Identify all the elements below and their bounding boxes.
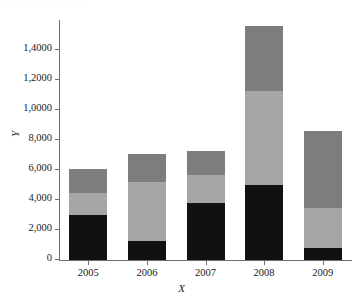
stacked-bar: [304, 131, 342, 260]
x-axis-tick: 2009: [323, 261, 324, 265]
bar-segment-series-1: [304, 248, 342, 260]
y-axis-tick: 1,4000: [55, 49, 59, 50]
bar-chart-figure: · ·· ·· ·· ·· · · ·· ·· · · ·· · 02,0004…: [0, 0, 363, 299]
bar-segment-series-3: [245, 26, 283, 91]
bar-segment-series-3: [69, 169, 107, 193]
y-axis-tick-label: 2,000: [28, 222, 52, 234]
y-axis-tick: 2,000: [55, 229, 59, 230]
x-axis-tick: 2008: [264, 261, 265, 265]
stacked-bar: [128, 154, 166, 261]
x-axis-tick: 2005: [88, 261, 89, 265]
x-axis-tick-label: 2005: [78, 267, 99, 279]
y-axis-tick: 8,000: [55, 139, 59, 140]
y-axis-tick-label: 4,000: [28, 192, 52, 204]
y-axis-tick-label: 1,4000: [23, 42, 52, 54]
bar-segment-series-2: [128, 182, 166, 241]
bar-segment-series-1: [69, 215, 107, 260]
bar-segment-series-1: [245, 185, 283, 260]
y-axis-tick-label: 6,000: [28, 162, 52, 174]
bar-segment-series-3: [304, 131, 342, 208]
x-axis-tick-label: 2008: [254, 267, 275, 279]
bar-segment-series-2: [304, 208, 342, 249]
bar-segment-series-2: [245, 91, 283, 186]
y-axis-tick-label: 1,2000: [23, 72, 52, 84]
bar-segment-series-1: [128, 241, 166, 261]
stacked-bar: [245, 26, 283, 260]
y-axis-tick-label: 0: [47, 252, 52, 264]
y-axis-tick-label: 1,0000: [23, 102, 52, 114]
y-axis-line: [59, 20, 60, 261]
x-axis-tick-label: 2006: [136, 267, 157, 279]
y-axis-tick: 4,000: [55, 199, 59, 200]
y-axis-title: Y: [9, 131, 21, 137]
x-axis-title: X: [0, 282, 363, 294]
stacked-bar: [69, 169, 107, 261]
y-axis-tick: 0: [55, 259, 59, 260]
y-axis-tick-label: 8,000: [28, 132, 52, 144]
x-axis-tick: 2007: [206, 261, 207, 265]
y-axis-tick: 1,2000: [55, 79, 59, 80]
stacked-bar: [187, 151, 225, 261]
bar-segment-series-1: [187, 203, 225, 260]
bar-segment-series-2: [69, 193, 107, 216]
y-axis-tick: 1,0000: [55, 109, 59, 110]
bar-segment-series-3: [128, 154, 166, 183]
page-caption-artifact: · ·· ·· ·· ·· · · ·· ·· · · ·· ·: [4, 0, 359, 8]
x-axis-tick: 2006: [147, 261, 148, 265]
bar-segment-series-2: [187, 175, 225, 204]
y-axis-tick: 6,000: [55, 169, 59, 170]
x-axis-tick-label: 2009: [312, 267, 333, 279]
plot-area: 02,0004,0006,0008,0001,00001,20001,4000 …: [59, 20, 352, 261]
bar-segment-series-3: [187, 151, 225, 175]
x-axis-tick-label: 2007: [195, 267, 216, 279]
